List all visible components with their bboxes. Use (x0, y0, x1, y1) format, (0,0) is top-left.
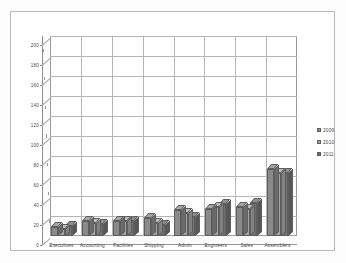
legend-label: 2010 (323, 140, 334, 145)
y-axis-tick-label: 40 (33, 203, 39, 208)
chart-screenshot: 020406080100120140160180200 ExecutivesAc… (0, 0, 346, 263)
bar-face (174, 210, 181, 236)
bar-side (281, 169, 286, 236)
bar-side (212, 205, 217, 236)
y-axis-tick-label: 160 (31, 83, 39, 88)
bar-side (188, 209, 193, 236)
x-axis-label-accounting: Accounting (80, 243, 105, 248)
legend-swatch-icon (317, 128, 321, 132)
bar-face (82, 221, 89, 236)
legend-swatch-icon (317, 140, 321, 144)
bar-2009-sales[interactable] (236, 207, 243, 236)
y-axis-tick-label: 140 (31, 103, 39, 108)
legend-label: 2009 (323, 128, 334, 133)
bar-face (205, 209, 212, 236)
y-axis-tick-label: 200 (31, 43, 39, 48)
legend-item-2009[interactable]: 2009 (317, 124, 346, 136)
x-axis-label-assemblers: Assemblers (265, 243, 291, 248)
bar-face (51, 227, 58, 236)
y-axis-tick-label: 180 (31, 63, 39, 68)
bar-side (181, 206, 186, 236)
bar-face (267, 169, 274, 236)
x-axis-label-shipping: Shipping (144, 243, 163, 248)
y-axis-tick-label: 0 (36, 243, 39, 248)
bar-side (274, 165, 279, 236)
x-axis-labels: ExecutivesAccountingFacilitiesShippingAd… (42, 243, 304, 255)
y-axis-tick-label: 120 (31, 123, 39, 128)
x-axis-label-executives: Executives (49, 243, 73, 248)
bar-face (144, 218, 151, 236)
bar-face (236, 207, 243, 236)
bar-2009-executives[interactable] (51, 227, 58, 236)
bar-2009-shipping[interactable] (144, 218, 151, 236)
legend-item-2010[interactable]: 2010 (317, 136, 346, 148)
bar-2009-facilities[interactable] (113, 221, 120, 236)
bar-2009-assemblers[interactable] (267, 169, 274, 236)
y-axis-tick-label: 60 (33, 183, 39, 188)
bar-side (219, 203, 224, 236)
legend-item-2011[interactable]: 2011 (317, 148, 346, 160)
bar-side (243, 203, 248, 236)
bar-2009-accounting[interactable] (82, 221, 89, 236)
bar-side (250, 205, 255, 236)
x-axis-label-sales: Sales (240, 243, 252, 248)
chart-legend: 200920102011 (317, 124, 346, 160)
legend-label: 2011 (323, 152, 334, 157)
y-axis-tick-label: 80 (33, 163, 39, 168)
bar-side (226, 200, 231, 236)
bar-face (113, 221, 120, 236)
plot-area: 020406080100120140160180200 (42, 28, 297, 241)
y-axis-tick-label: 100 (31, 143, 39, 148)
bar-side (195, 213, 200, 236)
bar-side (257, 199, 262, 236)
x-axis-label-facilities: Facilities (113, 243, 133, 248)
legend-swatch-icon (317, 152, 321, 156)
x-axis-label-engineers: Engineers (205, 243, 227, 248)
x-axis-label-admin: Admin (178, 243, 192, 248)
bar-2009-engineers[interactable] (205, 209, 212, 236)
bars-layer (42, 28, 297, 245)
chart-frame: 020406080100120140160180200 ExecutivesAc… (10, 11, 335, 251)
bar-2009-admin[interactable] (174, 210, 181, 236)
y-axis-tick-label: 20 (33, 223, 39, 228)
bar-side (288, 169, 293, 236)
